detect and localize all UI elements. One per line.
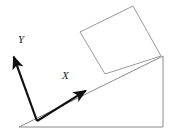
y-axis-arrow [14, 57, 37, 121]
diagram-svg [0, 0, 173, 140]
figure-canvas: Y X [0, 0, 173, 140]
y-axis-label: Y [18, 34, 24, 45]
x-axis-label: X [62, 70, 69, 81]
inclined-plane-outline [19, 56, 163, 127]
